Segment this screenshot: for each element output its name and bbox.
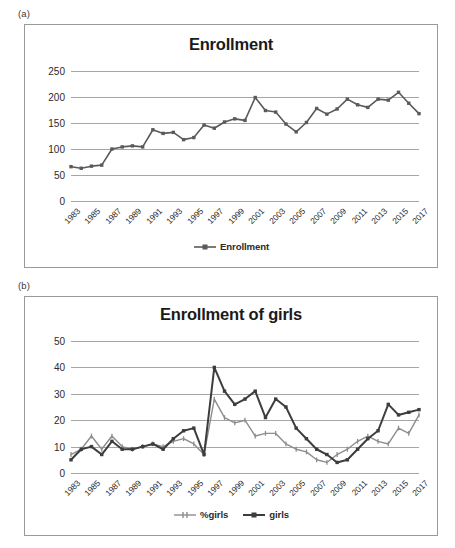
y-axis-tick-label: 50 [54, 336, 65, 347]
chart-b-frame: Enrollment of girls 01020304050198319851… [24, 296, 438, 536]
x-axis-tick-label: 2011 [349, 206, 369, 226]
data-point-marker [397, 413, 400, 416]
data-point-marker [274, 110, 277, 113]
data-point-marker [223, 389, 226, 392]
x-axis-tick-label: 1987 [103, 206, 123, 226]
legend-swatch-girls [242, 510, 266, 520]
x-axis-tick-label: 1991 [144, 206, 164, 226]
data-point-marker [356, 103, 359, 106]
data-point-marker [141, 445, 144, 448]
y-axis-tick-label: 30 [54, 388, 65, 399]
data-point-marker [254, 389, 257, 392]
data-point-marker [100, 453, 103, 456]
data-point-marker [325, 112, 328, 115]
data-point-marker [407, 102, 410, 105]
data-point-marker [305, 437, 308, 440]
legend-item-Enrollment: Enrollment [193, 241, 269, 252]
data-point-marker [172, 437, 175, 440]
data-point-marker [294, 130, 297, 133]
x-axis-tick-label: 2009 [328, 206, 348, 226]
legend-swatch-%girls [173, 510, 197, 520]
data-point-marker [254, 96, 257, 99]
legend-item-%girls: %girls [173, 509, 228, 520]
data-point-marker [284, 122, 287, 125]
x-axis-tick-label: 1999 [226, 206, 246, 226]
data-point-marker [417, 112, 420, 115]
data-point-marker [407, 411, 410, 414]
x-axis-tick-label: 2007 [308, 206, 328, 226]
x-axis-tick-label: 1999 [226, 478, 246, 498]
x-axis-tick-label: 1993 [164, 478, 184, 498]
data-point-marker [90, 164, 93, 167]
x-axis-tick-label: 2003 [267, 206, 287, 226]
gridline [71, 201, 419, 202]
data-point-marker [182, 429, 185, 432]
series-line-%girls [71, 399, 419, 462]
figure-panel-a: (a) Enrollment 0501001502002501983198519… [0, 0, 455, 278]
y-axis-tick-label: 0 [59, 196, 65, 207]
chart-b-title: Enrollment of girls [25, 305, 437, 324]
data-point-marker [161, 132, 164, 135]
data-point-marker [315, 448, 318, 451]
legend-item-girls: girls [242, 509, 289, 520]
data-point-marker [387, 98, 390, 101]
x-axis-tick-label: 2017 [410, 478, 430, 498]
x-axis-tick-label: 2013 [369, 206, 389, 226]
x-axis-tick-label: 2001 [246, 206, 266, 226]
data-point-marker [366, 106, 369, 109]
legend-label: girls [269, 509, 289, 520]
data-point-marker [131, 448, 134, 451]
y-axis-tick-label: 20 [54, 415, 65, 426]
series-layer [71, 71, 419, 201]
data-point-marker [202, 123, 205, 126]
data-point-marker [305, 121, 308, 124]
y-axis-tick-label: 250 [48, 66, 65, 77]
data-point-marker [141, 145, 144, 148]
legend-label: Enrollment [220, 241, 269, 252]
data-point-marker [69, 458, 72, 461]
x-axis-tick-label: 2015 [390, 206, 410, 226]
x-axis-tick-label: 1983 [62, 206, 82, 226]
x-axis-tick-label: 2015 [390, 478, 410, 498]
chart-a-frame: Enrollment 05010015020025019831985198719… [24, 24, 438, 268]
x-axis-tick-label: 1993 [164, 206, 184, 226]
data-point-marker [100, 163, 103, 166]
chart-b-legend: %girlsgirls [25, 509, 437, 520]
data-point-marker [397, 91, 400, 94]
x-axis-tick-label: 1995 [185, 206, 205, 226]
x-axis-tick-label: 1989 [124, 478, 144, 498]
panel-label-b: (b) [18, 280, 30, 291]
data-point-marker [192, 426, 195, 429]
data-point-marker [110, 440, 113, 443]
data-point-marker [376, 97, 379, 100]
legend-swatch-Enrollment [193, 242, 217, 252]
data-point-marker [161, 448, 164, 451]
data-point-marker [69, 165, 72, 168]
data-point-marker [346, 97, 349, 100]
data-point-marker [213, 127, 216, 130]
data-point-marker [223, 120, 226, 123]
data-point-marker [356, 448, 359, 451]
x-axis-tick-label: 2007 [308, 478, 328, 498]
x-axis-tick-label: 1991 [144, 478, 164, 498]
x-axis-tick-label: 1987 [103, 478, 123, 498]
data-point-marker [325, 453, 328, 456]
chart-a-legend: Enrollment [25, 241, 437, 252]
data-point-marker [151, 442, 154, 445]
data-point-marker [233, 117, 236, 120]
data-point-marker [131, 144, 134, 147]
figure-panel-b: (b) Enrollment of girls 0102030405019831… [0, 278, 455, 548]
data-point-marker [335, 461, 338, 464]
data-point-marker [264, 109, 267, 112]
x-axis-tick-label: 1997 [205, 478, 225, 498]
x-axis-tick-label: 2005 [287, 478, 307, 498]
data-point-marker [366, 437, 369, 440]
data-point-marker [192, 136, 195, 139]
series-layer [71, 341, 419, 473]
y-axis-tick-label: 150 [48, 118, 65, 129]
data-point-marker [243, 397, 246, 400]
data-point-marker [315, 107, 318, 110]
data-point-marker [264, 416, 267, 419]
x-axis-tick-label: 2009 [328, 478, 348, 498]
x-axis-tick-label: 1985 [83, 478, 103, 498]
